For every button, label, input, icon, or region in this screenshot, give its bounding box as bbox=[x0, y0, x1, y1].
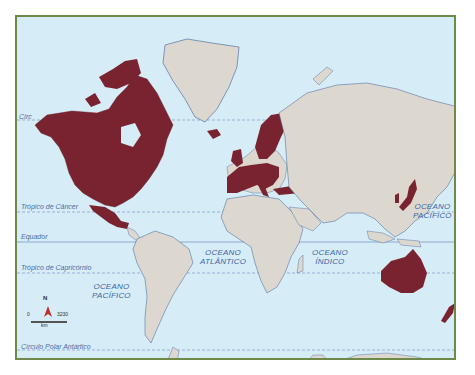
antarctica-peninsula bbox=[167, 347, 179, 360]
scale-unit: km bbox=[41, 322, 48, 328]
ocean-name-line2: ÍNDICO bbox=[312, 257, 348, 266]
iceland bbox=[207, 129, 221, 139]
greenland bbox=[163, 39, 239, 122]
antarctica-coast bbox=[337, 353, 435, 360]
ocean-name-line2: PACÍFICO bbox=[92, 291, 131, 300]
antarctic-circle-label: Círculo Polar Antártico bbox=[21, 343, 91, 350]
world-map: Círc Trópico de Câncer Equador Trópico d… bbox=[15, 15, 456, 360]
ocean-name-line1: OCEANO bbox=[92, 282, 131, 291]
madagascar bbox=[297, 255, 303, 273]
ocean-label-pacific-ne: OCEANO PACÍFICO bbox=[413, 202, 452, 220]
ocean-name-line2: PACÍFICO bbox=[413, 211, 452, 220]
equator-label: Equador bbox=[21, 233, 47, 240]
compass-north-label: N bbox=[43, 295, 47, 301]
ocean-label-indian: OCEANO ÍNDICO bbox=[312, 248, 348, 266]
ocean-label-atlantic: OCEANO ATLÂNTICO bbox=[200, 248, 246, 266]
novaya-zemlya bbox=[313, 67, 333, 85]
scale-min: 0 bbox=[27, 311, 30, 317]
arctic-island bbox=[85, 93, 101, 107]
ocean-label-pacific-sw: OCEANO PACÍFICO bbox=[92, 282, 131, 300]
ocean-name-line1: OCEANO bbox=[312, 248, 348, 257]
australia bbox=[381, 249, 427, 293]
new-zealand bbox=[441, 303, 455, 323]
compass-and-scale: N 0 3230 km bbox=[27, 295, 87, 335]
ocean-name-line1: OCEANO bbox=[413, 202, 452, 211]
tropic-of-cancer-label: Trópico de Câncer bbox=[21, 203, 78, 210]
tropic-of-capricorn-label: Trópico de Capricórnio bbox=[21, 264, 91, 271]
scale-max: 3230 bbox=[57, 311, 68, 317]
south-america bbox=[133, 231, 193, 343]
ocean-name-line1: OCEANO bbox=[200, 248, 246, 257]
antarctica-fragment bbox=[307, 355, 329, 360]
arctic-circle-label: Círc bbox=[19, 113, 32, 120]
north-america-highlighted bbox=[35, 75, 173, 207]
mexico bbox=[89, 205, 129, 229]
new-guinea bbox=[397, 239, 421, 247]
ocean-name-line2: ATLÂNTICO bbox=[200, 257, 246, 266]
